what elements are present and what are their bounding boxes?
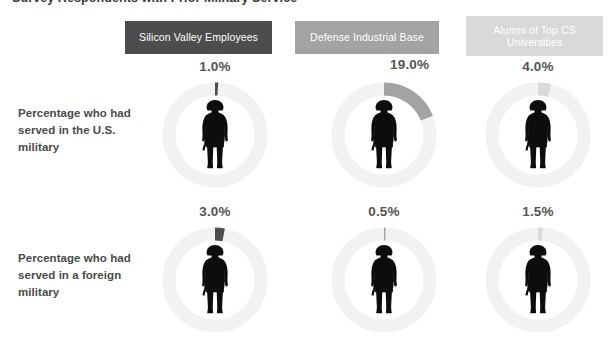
percentage-value-label: 1.0%	[155, 59, 275, 74]
column-header-alumni-top-cs-universities[interactable]: Alumni of Top CS Universities	[466, 16, 603, 56]
column-header-label: Defense Industrial Base	[310, 31, 424, 44]
column-header-label: Silicon Valley Employees	[139, 31, 258, 44]
percentage-value-label: 1.5%	[478, 204, 598, 219]
soldier-silhouette-icon	[359, 243, 409, 317]
donut-chart-cell[interactable]: 0.5%	[324, 220, 444, 340]
donut-chart-cell[interactable]: 4.0%	[478, 75, 598, 195]
column-header-label: Alumni of Top CS Universities	[472, 24, 597, 49]
page-title: Survey Respondents with Prior Military S…	[12, 0, 297, 5]
column-header-silicon-valley-employees[interactable]: Silicon Valley Employees	[125, 21, 272, 54]
percentage-value-label: 0.5%	[324, 204, 444, 219]
row-label-us-military: Percentage who had served in the U.S. mi…	[18, 105, 143, 156]
donut-chart-cell[interactable]: 3.0%	[155, 220, 275, 340]
soldier-silhouette-icon	[513, 243, 563, 317]
percentage-value-label: 3.0%	[155, 204, 275, 219]
row-label-foreign-military: Percentage who had served in a foreign m…	[18, 250, 143, 301]
soldier-silhouette-icon	[359, 98, 409, 172]
donut-chart-cell[interactable]: 1.0%	[155, 75, 275, 195]
percentage-value-label: 19.0%	[390, 57, 429, 72]
column-header-defense-industrial-base[interactable]: Defense Industrial Base	[295, 21, 439, 54]
soldier-silhouette-icon	[190, 98, 240, 172]
soldier-silhouette-icon	[190, 243, 240, 317]
percentage-value-label: 4.0%	[478, 59, 598, 74]
donut-chart-cell[interactable]: 1.5%	[478, 220, 598, 340]
donut-chart-cell[interactable]: 19.0%	[324, 75, 444, 195]
soldier-silhouette-icon	[513, 98, 563, 172]
